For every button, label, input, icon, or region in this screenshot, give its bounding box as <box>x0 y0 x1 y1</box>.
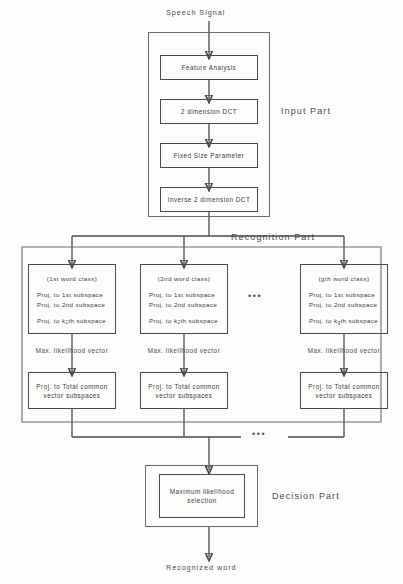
word-class-box-1[interactable]: (1st word class) Proj. to 1st subspace P… <box>28 264 116 334</box>
block-inverse-2d-dct[interactable]: Inverse 2 dimension DCT <box>160 187 258 212</box>
word-class-g-line-2: Proj. to 2nd subspace <box>309 301 377 308</box>
common-vector-label-g: Proj. to Total commonvector subspaces <box>301 381 387 400</box>
common-vector-box-g[interactable]: Proj. to Total commonvector subspaces <box>300 372 388 409</box>
input-part-label: Input Part <box>281 106 331 116</box>
block-inverse-2d-dct-label: Inverse 2 dimension DCT <box>161 195 257 204</box>
recognition-part-label: Recognition Part <box>231 232 315 242</box>
flowchart-diagram: Speech Signal Input Part Feature Analysi… <box>0 0 403 584</box>
decision-part-label: Decision Part <box>272 491 340 501</box>
block-2d-dct[interactable]: 2 dimension DCT <box>160 99 258 124</box>
block-fixed-size-parameter[interactable]: Fixed Size Parameter <box>160 143 258 168</box>
word-class-2-line-2: Proj. to 2nd subspace <box>149 301 217 308</box>
word-class-box-2[interactable]: (2nd word class) Proj. to 1st subspace P… <box>140 264 228 334</box>
ellipsis-merge-bus: ••• <box>252 430 266 439</box>
block-maximum-likelihood-selection[interactable]: Maximum likelihoodselection <box>159 474 245 518</box>
block-maximum-likelihood-selection-label: Maximum likelihoodselection <box>160 487 244 506</box>
word-class-title-1: (1st word class) <box>29 275 115 282</box>
word-class-title-g: (gth word class) <box>301 275 387 282</box>
max-likelihood-vector-label-g: Max. likelihood vector <box>295 346 393 355</box>
ellipsis-word-classes: ••• <box>248 292 262 301</box>
word-class-title-2: (2nd word class) <box>141 275 227 282</box>
word-class-g-line-k: Proj. to kgth subspace <box>309 317 378 324</box>
word-class-box-g[interactable]: (gth word class) Proj. to 1st subspace P… <box>300 264 388 334</box>
word-class-g-line-1: Proj. to 1st subspace <box>309 291 375 298</box>
block-feature-analysis-label: Feature Analysis <box>161 63 257 72</box>
word-class-1-line-2: Proj. to 2nd subspace <box>37 301 105 308</box>
input-signal-label: Speech Signal <box>166 8 225 17</box>
common-vector-label-1: Proj. to Total commonvector subspaces <box>29 381 115 400</box>
common-vector-box-2[interactable]: Proj. to Total commonvector subspaces <box>140 372 228 409</box>
max-likelihood-vector-label-1: Max. likelihood vector <box>23 346 121 355</box>
block-2d-dct-label: 2 dimension DCT <box>161 107 257 116</box>
block-fixed-size-parameter-label: Fixed Size Parameter <box>161 151 257 160</box>
output-word-label: Recognized word <box>166 563 237 572</box>
block-feature-analysis[interactable]: Feature Analysis <box>160 55 258 80</box>
word-class-2-line-1: Proj. to 1st subspace <box>149 291 215 298</box>
word-class-1-line-1: Proj. to 1st subspace <box>37 291 103 298</box>
word-class-1-line-k: Proj. to k1th subspace <box>37 317 106 324</box>
max-likelihood-vector-label-2: Max. likelihood vector <box>135 346 233 355</box>
common-vector-box-1[interactable]: Proj. to Total commonvector subspaces <box>28 372 116 409</box>
common-vector-label-2: Proj. to Total commonvector subspaces <box>141 381 227 400</box>
word-class-2-line-k: Proj. to k2th subspace <box>149 317 218 324</box>
